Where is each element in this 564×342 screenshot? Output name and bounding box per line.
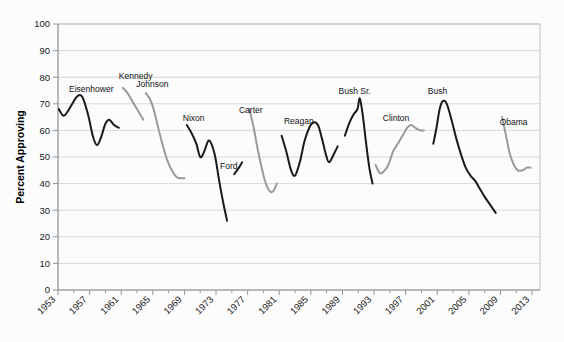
y-axis-title-label: Percent Approving [14,110,26,204]
series-label-eisenhower: Eisenhower [69,84,114,94]
series-label-reagan: Reagan [284,116,314,126]
y-tick-label: 80 [39,72,50,83]
y-axis-title: Percent Approving [14,110,26,204]
y-tick-label: 100 [34,18,50,29]
y-tick-label: 30 [39,205,50,216]
y-tick-label: 40 [39,178,50,189]
y-tick-label: 50 [39,151,50,162]
series-label-clinton: Clinton [383,113,410,123]
series-label-carter: Carter [239,105,263,115]
approval-rating-line-chart: 0102030405060708090100 19531957196119651… [0,0,564,342]
chart-figure: 0102030405060708090100 19531957196119651… [0,0,564,342]
y-tick-label: 10 [39,258,50,269]
y-tick-label: 90 [39,45,50,56]
chart-background [0,0,564,342]
series-label-johnson: Johnson [136,79,168,89]
y-tick-label: 60 [39,125,50,136]
y-tick-label: 70 [39,98,50,109]
series-label-nixon: Nixon [183,113,205,123]
y-tick-label: 20 [39,231,50,242]
series-label-obama: Obama [500,117,528,127]
series-label-ford: Ford [220,161,238,171]
series-label-bush: Bush [428,86,448,96]
series-label-bush-sr: Bush Sr. [339,86,371,96]
